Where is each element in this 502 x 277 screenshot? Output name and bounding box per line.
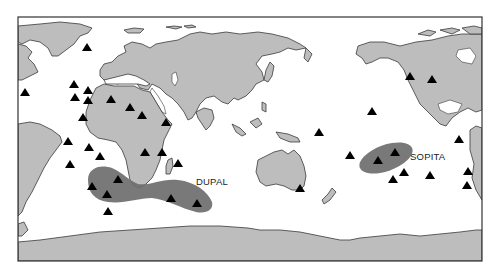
landmass-philippines xyxy=(262,102,266,112)
dupal-label: DUPAL xyxy=(196,176,228,187)
map-content: DUPAL SOPITA xyxy=(18,17,482,261)
sopita-label: SOPITA xyxy=(410,151,446,162)
world-map: DUPAL SOPITA xyxy=(0,0,502,277)
